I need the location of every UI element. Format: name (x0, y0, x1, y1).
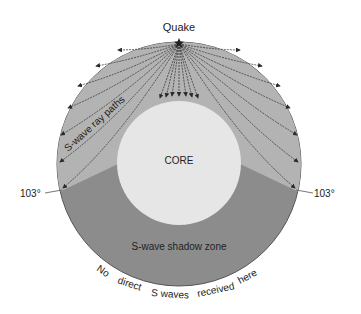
left-angle-label: 103° (20, 188, 41, 199)
arc-word-1: No (95, 263, 112, 280)
core-label: CORE (165, 155, 194, 166)
shadow-zone-label: S-wave shadow zone (131, 241, 226, 252)
s-wave-diagram: Quake CORE S-wave ray paths S-wave shado… (0, 0, 361, 314)
right-angle-leader (296, 190, 313, 193)
arc-word-3: S waves (151, 287, 189, 301)
left-angle-leader (45, 190, 62, 193)
quake-label: Quake (163, 21, 195, 33)
right-angle-label: 103° (314, 188, 335, 199)
